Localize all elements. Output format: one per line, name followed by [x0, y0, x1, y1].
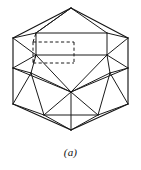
figure-container: (a) — [0, 0, 141, 170]
faces-layer — [36, 33, 107, 55]
polyhedron-face-0 — [36, 33, 107, 55]
polyhedron-diagram — [0, 0, 141, 170]
figure-caption: (a) — [0, 146, 141, 159]
diagram-background — [0, 0, 141, 170]
